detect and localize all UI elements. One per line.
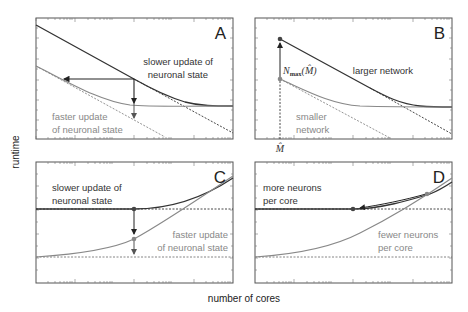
- x-axis-label: number of cores: [208, 293, 280, 304]
- panel-a-letter: A: [215, 24, 227, 43]
- panel-c-fast-label-2: of neuronal state: [157, 242, 228, 253]
- panel-b-nmax-label: Nmax(M̂): [282, 64, 317, 77]
- panel-b-larger-point: [278, 37, 283, 42]
- panel-a-fast-label-2: of neuronal state: [52, 124, 123, 135]
- panel-d: more neurons per core fewer neurons per …: [255, 162, 452, 283]
- panel-a-slow-label-2: neuronal state: [148, 69, 208, 80]
- panel-c-slow-label-2: neuronal state: [52, 195, 112, 206]
- panel-d-fewer-point: [425, 192, 430, 197]
- figure-canvas: slower update of neuronal state faster u…: [0, 0, 468, 312]
- panel-b-letter: B: [434, 24, 445, 43]
- panel-a-fast-label-1: faster update: [52, 111, 107, 122]
- panel-c: slower update of neuronal state faster u…: [36, 162, 233, 283]
- panel-c-fast-label-1: faster update: [173, 229, 228, 240]
- panel-a: slower update of neuronal state faster u…: [36, 18, 233, 139]
- panel-b-smaller-label-1: smaller: [296, 111, 327, 122]
- panel-b: Nmax(M̂) larger network smaller network …: [255, 18, 452, 154]
- panel-d-fewer-label-2: per core: [378, 242, 413, 253]
- panel-d-more-point: [351, 207, 356, 212]
- panel-c-slow-point: [132, 207, 137, 212]
- panel-b-smaller-point: [278, 77, 283, 82]
- panel-c-fast-point: [132, 237, 137, 242]
- panel-d-fewer-label-1: fewer neurons: [378, 229, 438, 240]
- panel-b-larger-asymptote: [370, 88, 452, 134]
- y-axis-label: runtime: [10, 135, 21, 169]
- panel-d-more-label-1: more neurons: [263, 182, 322, 193]
- panel-a-slow-label-1: slower update of: [143, 56, 213, 67]
- panel-d-letter: D: [433, 168, 445, 187]
- panel-b-mhat-tick-label: M̂: [275, 142, 285, 154]
- panel-d-ticks: [255, 162, 452, 283]
- panel-d-more-label-2: per core: [263, 195, 298, 206]
- panel-c-letter: C: [214, 168, 226, 187]
- panel-c-slow-label-1: slower update of: [52, 182, 122, 193]
- panel-b-smaller-label-2: network: [296, 124, 330, 135]
- panel-b-larger-label: larger network: [353, 65, 413, 76]
- panel-d-frame: [255, 162, 452, 283]
